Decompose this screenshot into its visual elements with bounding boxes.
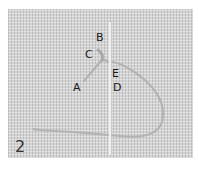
thread-loop: [34, 60, 163, 137]
point-label-a: A: [73, 82, 81, 93]
point-label-d: D: [113, 82, 121, 93]
step-number: 2: [15, 139, 25, 155]
point-label-c: C: [85, 49, 93, 60]
embroidery-stitch-illustration: [0, 0, 198, 171]
thread-knot: [98, 50, 103, 60]
point-label-b: B: [96, 32, 104, 43]
point-label-e: E: [112, 68, 119, 79]
